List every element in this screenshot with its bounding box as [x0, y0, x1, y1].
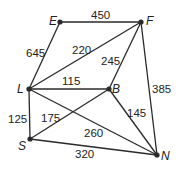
- node-label-E: E: [49, 14, 58, 28]
- weight-S-B: 175: [41, 112, 60, 124]
- node-label-L: L: [17, 82, 24, 96]
- weight-E-L: 645: [26, 47, 45, 59]
- node-N: [154, 152, 159, 157]
- node-label-F: F: [146, 14, 154, 28]
- weight-L-B: 115: [62, 75, 80, 87]
- node-E: [57, 19, 62, 24]
- weight-B-N: 145: [127, 107, 146, 119]
- weight-L-N: 260: [84, 127, 103, 139]
- node-label-S: S: [18, 139, 26, 153]
- edge-L-S: [29, 89, 30, 139]
- weight-F-N: 385: [152, 83, 171, 95]
- node-label-N: N: [161, 149, 170, 163]
- weight-E-F: 450: [91, 9, 110, 21]
- node-S: [27, 136, 32, 141]
- node-L: [26, 86, 31, 91]
- weight-L-S: 125: [8, 113, 27, 125]
- weight-L-F: 220: [72, 44, 91, 56]
- weight-S-N: 320: [75, 148, 94, 160]
- node-label-B: B: [112, 82, 120, 96]
- weight-B-F: 245: [101, 55, 120, 67]
- node-B: [106, 86, 111, 91]
- node-F: [138, 19, 143, 24]
- weighted-graph: E F L B S N 450 645 220 245 385 115 125 …: [0, 0, 180, 173]
